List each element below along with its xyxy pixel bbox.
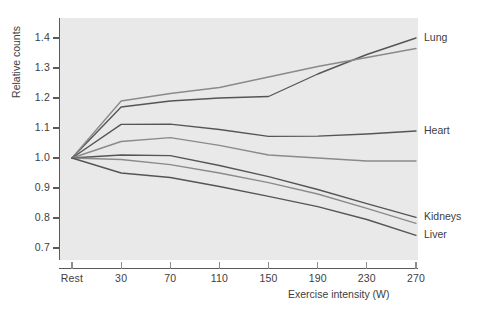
- series-line-kidneys-second: [72, 158, 416, 223]
- series-label-liver: Liver: [424, 228, 447, 240]
- series-line-lung: [72, 38, 416, 158]
- series-label-heart: Heart: [424, 124, 450, 136]
- series-label-kidneys: Kidneys: [424, 210, 461, 222]
- series-label-lung: Lung: [424, 31, 447, 43]
- series-line-liver: [72, 158, 416, 235]
- series-lines: [0, 0, 482, 310]
- chart-container: 1.41.31.21.11.00.90.80.7 Rest30701101501…: [0, 0, 482, 310]
- series-line-heart-second: [72, 138, 416, 161]
